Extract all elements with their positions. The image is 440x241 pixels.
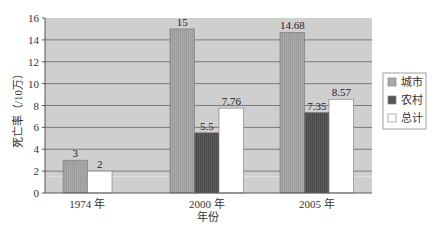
- bar-chart: 32155.57.7614.687.358.57 0246810121416 1…: [0, 0, 440, 241]
- bar-value-label: 2: [97, 158, 103, 170]
- x-axis-ticks: 1974 年2000 年2005 年: [69, 197, 335, 210]
- x-tick-label: 2005 年: [299, 197, 335, 210]
- x-axis-title: 年份: [197, 210, 219, 223]
- bar-value-label: 5.5: [200, 120, 214, 132]
- x-tick-label: 1974 年: [69, 197, 105, 210]
- y-axis-title: 死亡率（/10万）: [11, 68, 24, 148]
- y-tick-label: 6: [34, 121, 40, 133]
- y-tick-label: 10: [28, 78, 40, 90]
- bar-value-label: 7.76: [222, 95, 242, 107]
- bar-城市: [280, 32, 305, 193]
- bar-value-label: 3: [73, 147, 79, 159]
- bar-城市: [63, 160, 88, 193]
- bar-value-label: 8.57: [332, 86, 352, 98]
- bar-城市: [170, 29, 195, 193]
- bar-农村: [305, 113, 330, 193]
- legend-label: 总计: [401, 111, 423, 124]
- y-tick-label: 14: [28, 34, 40, 46]
- y-tick-label: 2: [34, 165, 40, 177]
- bar-value-label: 7.35: [307, 100, 327, 112]
- legend: 城市农村总计: [383, 73, 426, 129]
- y-axis-ticks: 0246810121416: [28, 12, 45, 199]
- bar-总计: [88, 171, 113, 193]
- legend-label: 农村: [401, 93, 423, 106]
- y-tick-label: 12: [28, 56, 39, 68]
- legend-swatch: [388, 96, 396, 104]
- bar-总计: [219, 108, 244, 193]
- bar-农村: [195, 133, 220, 193]
- bar-value-label: 14.68: [280, 19, 305, 31]
- bar-value-label: 15: [177, 16, 189, 28]
- legend-swatch: [388, 78, 396, 86]
- y-tick-label: 8: [34, 100, 40, 112]
- x-tick-label: 2000 年: [189, 197, 225, 210]
- legend-label: 城市: [401, 75, 423, 88]
- y-tick-label: 4: [34, 143, 40, 155]
- legend-swatch: [388, 114, 396, 122]
- y-tick-label: 16: [28, 12, 40, 24]
- y-tick-label: 0: [34, 187, 40, 199]
- bar-总计: [329, 99, 354, 193]
